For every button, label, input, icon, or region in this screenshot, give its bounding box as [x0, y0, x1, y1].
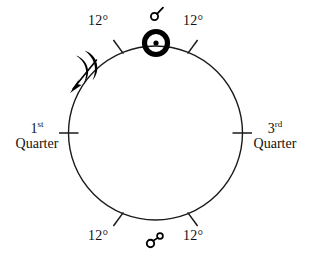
third-quarter-label: 3rd Quarter: [241, 122, 309, 151]
degree-label-bottom-left: 12°: [88, 229, 108, 244]
tick-bottom-left: [113, 212, 123, 226]
conjunction-symbol: [151, 8, 163, 20]
tick-top-left: [113, 40, 123, 54]
degree-label-top-right: 12°: [183, 14, 203, 29]
lunar-phase-diagram: 12° 12° 12° 12° 1st Quarter 3rd Quarter: [0, 0, 311, 261]
first-quarter-ordinal-suffix: st: [37, 119, 43, 129]
tick-top-right: [188, 40, 198, 54]
third-quarter-ordinal-number: 3: [268, 121, 275, 136]
sun-symbol: [145, 32, 168, 55]
first-quarter-word: Quarter: [4, 137, 70, 152]
third-quarter-ordinal-suffix: rd: [275, 119, 283, 129]
tick-marks-group: [59, 40, 252, 226]
moon-motion-arrow: [70, 60, 97, 93]
degree-label-bottom-right: 12°: [183, 229, 203, 244]
orbit-circle: [69, 46, 243, 220]
crescent-moon-symbol: [76, 51, 97, 84]
first-quarter-ordinal: 1st: [30, 122, 43, 137]
opposition-symbol: [147, 233, 163, 247]
third-quarter-word: Quarter: [241, 137, 309, 152]
tick-bottom-right: [188, 212, 198, 226]
degree-label-top-left: 12°: [88, 14, 108, 29]
first-quarter-label: 1st Quarter: [4, 122, 70, 151]
third-quarter-ordinal: 3rd: [268, 122, 283, 137]
